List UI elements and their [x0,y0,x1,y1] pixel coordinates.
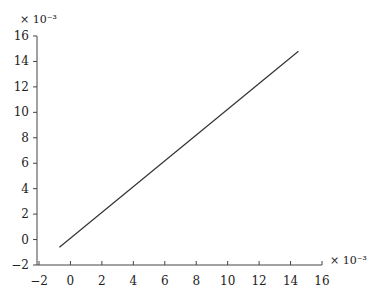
y-tick-label: 0 [21,233,29,247]
y-tick-label: 6 [21,156,29,170]
x-tick-label: 4 [130,274,138,288]
data-series-line [59,51,298,247]
line-chart: −20246810121416−20246810121416× 10⁻³× 10… [0,0,377,297]
x-tick-label: 12 [251,274,266,288]
y-multiplier: × 10⁻³ [20,13,57,26]
y-tick-label: 16 [14,29,29,43]
x-tick-label: 16 [314,274,329,288]
y-tick-label: 2 [21,207,29,221]
x-tick-label: 14 [283,274,299,288]
y-tick-label: 12 [14,80,29,94]
y-tick-label: 4 [21,182,29,196]
x-tick-label: 6 [161,274,169,288]
x-tick-label: 10 [220,274,235,288]
x-tick-label: 0 [67,274,75,288]
y-tick-label: 8 [21,131,29,145]
x-tick-label: 2 [98,274,106,288]
chart-canvas: −20246810121416−20246810121416× 10⁻³× 10… [0,0,377,297]
y-tick-label: 10 [14,105,29,119]
x-tick-label: −2 [30,274,48,288]
y-tick-label: 14 [14,54,30,68]
x-multiplier: × 10⁻³ [330,254,367,267]
y-tick-label: −2 [11,258,29,272]
x-tick-label: 8 [192,274,200,288]
